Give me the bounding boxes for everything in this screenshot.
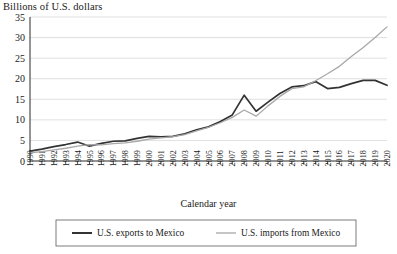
chart-legend: U.S. exports to MexicoU.S. imports from … — [56, 220, 356, 246]
y-axis-tick-label: 5 — [20, 135, 25, 146]
x-axis-tick-label: 2003 — [181, 150, 190, 166]
x-axis-tick-label: 2010 — [264, 150, 273, 166]
y-axis-tick-label: 15 — [15, 94, 25, 105]
legend-label-exports: U.S. exports to Mexico — [97, 228, 185, 238]
x-axis-tick-label: 2019 — [371, 150, 380, 166]
y-axis-tick-label: 10 — [15, 114, 25, 125]
x-axis-tick-label: 2017 — [347, 150, 356, 166]
x-axis-title: Calendar year — [181, 198, 237, 209]
x-axis-tick-label: 2004 — [193, 150, 202, 166]
x-axis-tick-label: 1996 — [97, 150, 106, 166]
x-axis-tick-label: 1995 — [86, 150, 95, 166]
x-axis-tick-label: 2007 — [228, 150, 237, 166]
x-axis-tick-label: 1993 — [62, 150, 71, 166]
x-axis-tick-label: 2002 — [169, 150, 178, 166]
x-axis-ticks: 1990199119921993199419951996199719981999… — [26, 150, 392, 166]
x-axis-tick-label: 2014 — [312, 150, 321, 166]
x-axis-tick-label: 2012 — [288, 150, 297, 166]
y-axis-tick-label: 30 — [15, 32, 25, 43]
x-axis-tick-label: 1991 — [38, 150, 47, 166]
x-axis-tick-label: 2013 — [300, 150, 309, 166]
x-axis-tick-label: 2011 — [276, 150, 285, 166]
line-chart: 05101520253035 1990199119921993199419951… — [0, 0, 397, 254]
y-axis-tick-label: 20 — [15, 73, 25, 84]
x-axis-tick-label: 2020 — [383, 150, 392, 166]
gridlines — [30, 17, 387, 140]
x-axis-tick-label: 1992 — [50, 150, 59, 166]
x-axis-tick-label: 1994 — [74, 150, 83, 166]
x-axis-tick-label: 2016 — [335, 150, 344, 166]
x-axis-tick-label: 2015 — [324, 150, 333, 166]
chart-container: Billions of U.S. dollars 05101520253035 … — [0, 0, 397, 254]
legend-label-imports: U.S. imports from Mexico — [241, 228, 341, 238]
x-axis-tick-label: 1997 — [109, 150, 118, 166]
x-axis-tick-label: 2005 — [205, 150, 214, 166]
x-axis-tick-label: 2006 — [216, 150, 225, 166]
x-axis-tick-label: 2000 — [145, 150, 154, 166]
x-axis-tick-label: 2001 — [157, 150, 166, 166]
x-axis-tick-label: 1999 — [133, 150, 142, 166]
y-axis-ticks: 05101520253035 — [15, 12, 25, 167]
series-line-imports — [30, 27, 387, 153]
data-series-group — [30, 27, 387, 153]
y-axis-tick-label: 35 — [15, 12, 25, 23]
x-axis-tick-label: 1998 — [121, 150, 130, 166]
y-axis-tick-label: 25 — [15, 53, 25, 64]
y-axis-tick-label: 0 — [20, 156, 25, 167]
x-axis-tick-label: 2009 — [252, 150, 261, 166]
x-axis-tick-label: 2008 — [240, 150, 249, 166]
x-axis-tick-label: 2018 — [359, 150, 368, 166]
